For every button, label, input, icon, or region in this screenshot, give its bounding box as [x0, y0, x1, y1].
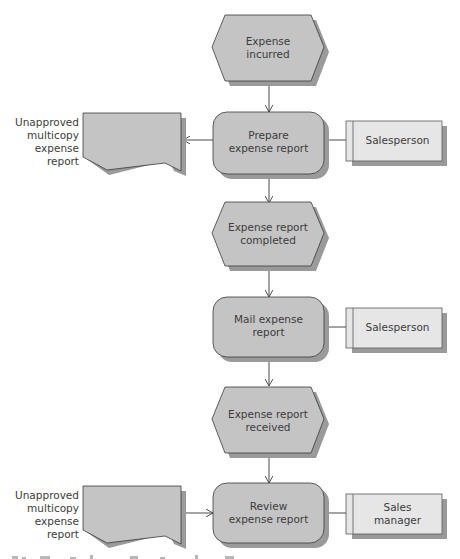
truncated-caption: [10, 553, 270, 559]
event-label-line: completed: [212, 234, 324, 247]
truncated-caption-marks: [10, 553, 270, 559]
role-label-line: manager: [353, 514, 442, 527]
event-label-line: incurred: [212, 48, 324, 61]
function-label-line: expense report: [213, 142, 324, 155]
document-output-shape: [83, 113, 186, 176]
function-label-line: Mail expense: [213, 313, 324, 326]
role-label-line: Salesperson: [353, 134, 442, 147]
event-completed-label: Expense report completed: [212, 221, 324, 247]
role-label-line: Salesperson: [353, 321, 442, 334]
document-label-line: multicopy: [0, 129, 79, 142]
function-prepare-label: Prepare expense report: [213, 129, 324, 155]
role-sales-manager-label: Sales manager: [353, 501, 442, 527]
function-mail-label: Mail expense report: [213, 313, 324, 339]
document-input-shape: [83, 486, 186, 549]
process-diagram-canvas: [0, 0, 460, 559]
role-salesperson-1-label: Salesperson: [353, 134, 442, 147]
role-salesperson-2-label: Salesperson: [353, 321, 442, 334]
event-incurred-label: Expense incurred: [212, 35, 324, 61]
event-label-line: Expense: [212, 35, 324, 48]
document-label-line: multicopy: [0, 502, 79, 515]
function-label-line: Review: [213, 500, 324, 513]
function-review-label: Review expense report: [213, 500, 324, 526]
document-label-line: Unapproved: [0, 489, 79, 502]
event-label-line: received: [212, 421, 324, 434]
function-label-line: Prepare: [213, 129, 324, 142]
document-input-label: Unapproved multicopy expense report: [0, 489, 79, 541]
document-label-line: expense report: [0, 515, 79, 541]
role-label-line: Sales: [353, 501, 442, 514]
document-output-label: Unapproved multicopy expense report: [0, 116, 79, 168]
function-label-line: report: [213, 326, 324, 339]
function-label-line: expense report: [213, 513, 324, 526]
document-label-line: Unapproved: [0, 116, 79, 129]
event-received-label: Expense report received: [212, 408, 324, 434]
event-label-line: Expense report: [212, 221, 324, 234]
document-label-line: expense report: [0, 142, 79, 168]
event-label-line: Expense report: [212, 408, 324, 421]
